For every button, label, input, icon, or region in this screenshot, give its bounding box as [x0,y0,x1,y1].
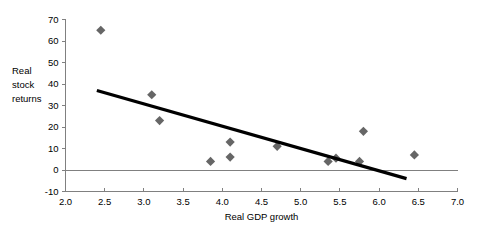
y-axis: -10010203040506070 [45,14,66,197]
data-point-marker [155,116,164,125]
y-tick-label: 50 [48,57,59,68]
x-tick-label: 2.5 [98,196,111,207]
x-tick-label: 2.0 [59,196,72,207]
y-axis-title-line: returns [12,93,42,104]
y-tick-label: 70 [48,14,59,25]
y-tick-label: 30 [48,100,59,111]
data-point-marker [226,137,235,146]
y-tick-label: -10 [45,186,59,197]
x-tick-label: 5.5 [333,196,346,207]
x-tick-label: 6.0 [372,196,385,207]
y-axis-title-line: stock [12,79,34,90]
trendline [97,90,407,178]
x-tick-label: 5.0 [294,196,307,207]
y-axis-title: Realstockreturns [12,65,42,104]
x-axis: 2.02.53.03.54.04.55.05.56.06.57.0 [59,170,464,207]
scatter-chart: -10010203040506070 2.02.53.03.54.04.55.0… [0,0,487,229]
data-point-marker [96,26,105,35]
y-tick-marks [62,20,66,192]
x-tick-label: 4.0 [216,196,229,207]
y-tick-label: 0 [53,164,58,175]
y-tick-label: 40 [48,78,59,89]
x-tick-marks [66,188,458,192]
y-tick-label: 20 [48,121,59,132]
y-tick-label: 10 [48,143,59,154]
data-point-marker [226,153,235,162]
data-point-markers [96,26,419,166]
y-tick-label: 60 [48,35,59,46]
x-tick-label: 3.5 [176,196,189,207]
data-point-marker [147,90,156,99]
x-tick-label: 3.0 [137,196,150,207]
data-point-marker [410,150,419,159]
x-tick-label: 6.5 [412,196,425,207]
chart-canvas: -10010203040506070 2.02.53.03.54.04.55.0… [0,0,487,229]
x-axis-title: Real GDP growth [225,211,299,222]
y-tick-labels: -10010203040506070 [45,14,59,197]
x-tick-labels: 2.02.53.03.54.04.55.05.56.06.57.0 [59,196,464,207]
x-tick-label: 4.5 [255,196,268,207]
data-point-marker [359,127,368,136]
data-point-marker [206,157,215,166]
x-tick-label: 7.0 [451,196,464,207]
y-axis-title-line: Real [12,65,32,76]
